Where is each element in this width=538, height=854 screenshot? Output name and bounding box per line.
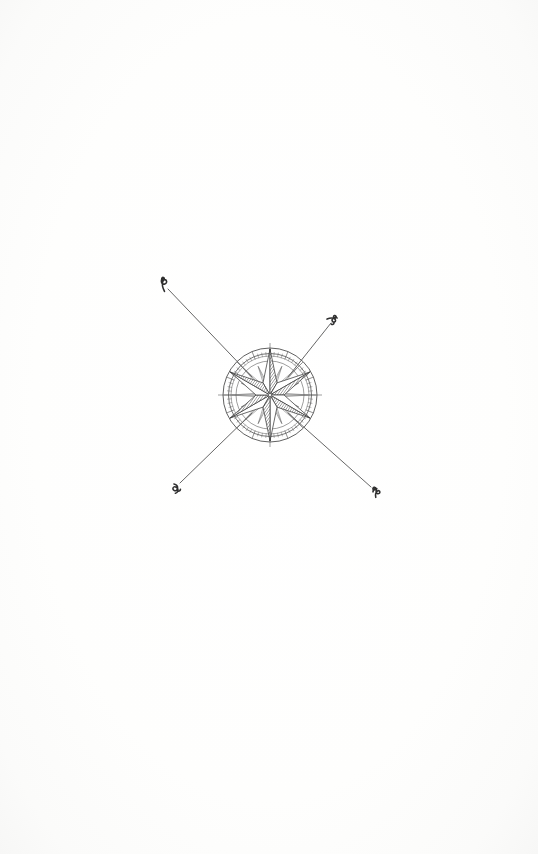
degree-tick xyxy=(229,382,234,383)
degree-tick xyxy=(252,352,255,359)
degree-tick xyxy=(306,410,313,413)
degree-tick xyxy=(306,377,313,380)
degree-tick xyxy=(307,382,312,383)
ornamental-letter-northwest-stroke xyxy=(156,277,171,292)
ornamental-letter-southwest-stroke xyxy=(170,483,181,494)
degree-tick xyxy=(281,432,282,437)
ornamental-letter-southeast-stroke xyxy=(370,486,381,497)
degree-tick xyxy=(281,354,282,359)
ornamental-letter-southwest xyxy=(170,483,181,494)
degree-tick xyxy=(257,432,258,437)
compass-rose-plate xyxy=(0,0,538,854)
degree-tick xyxy=(252,431,255,438)
ornamental-letter-southeast xyxy=(370,486,381,497)
degree-tick xyxy=(307,406,312,407)
degree-tick xyxy=(227,410,234,413)
ornamental-letter-northwest xyxy=(156,277,171,292)
rumb-line-southeast xyxy=(288,413,371,487)
rumb-line-northwest xyxy=(168,289,252,377)
ornamental-letter-northeast xyxy=(327,313,339,325)
degree-tick xyxy=(227,377,234,380)
page-canvas: Compass Rose Plate xyxy=(0,0,538,854)
ornamental-letter-northeast-stroke xyxy=(327,313,339,325)
degree-tick xyxy=(285,352,288,359)
degree-tick xyxy=(285,431,288,438)
degree-tick xyxy=(257,354,258,359)
degree-tick xyxy=(229,406,234,407)
hub-dot xyxy=(268,393,271,396)
